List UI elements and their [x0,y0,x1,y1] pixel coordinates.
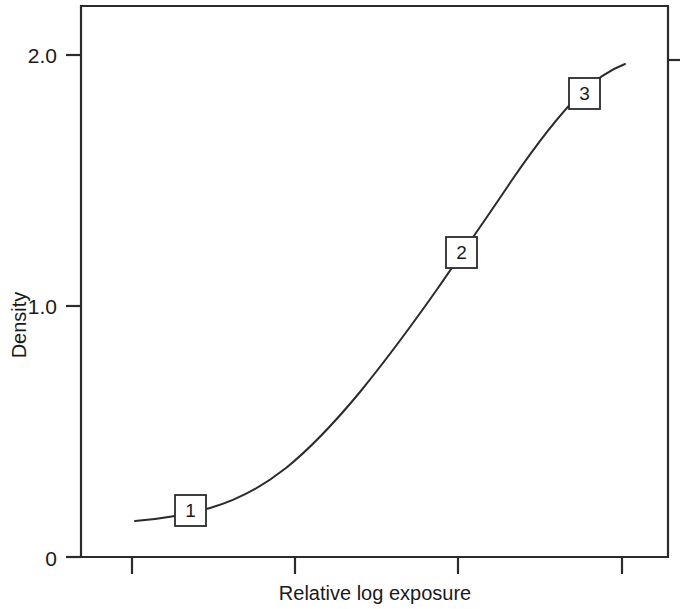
y-tick-label-0: 0 [45,547,57,570]
characteristic-curve-chart: 2.0 1.0 0 Density Relative log exposure … [0,0,680,609]
marker-label-3: 3 [579,83,590,104]
y-tick-label-1: 1.0 [28,295,57,318]
chart-canvas: 2.0 1.0 0 Density Relative log exposure … [0,0,680,609]
curve-point-marker-3: 3 [569,78,600,109]
y-axis-title: Density [8,292,30,359]
marker-label-1: 1 [185,500,196,521]
marker-label-2: 2 [456,242,467,263]
curve-point-marker-1: 1 [175,495,206,526]
curve-point-marker-2: 2 [446,237,477,268]
y-tick-label-2: 2.0 [28,44,57,67]
x-axis-title: Relative log exposure [279,582,471,604]
